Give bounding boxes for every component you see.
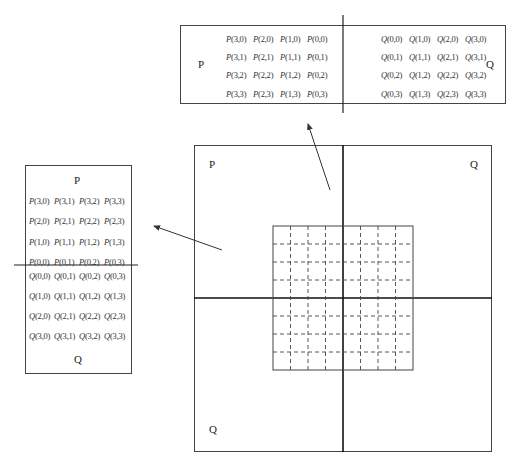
diagram-lines	[0, 0, 515, 466]
arrow-to-left-panel	[154, 226, 222, 250]
arrow-to-top-panel	[308, 124, 330, 190]
